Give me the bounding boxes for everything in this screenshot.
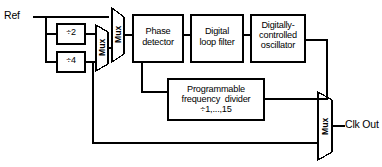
pll-block-diagram: Ref ÷2 ÷4 Mux Mux Phase detector Digital… <box>0 0 382 167</box>
frequency-divider-line-2: frequency divider <box>167 95 265 104</box>
loop-filter-line-1: Digital <box>191 27 243 36</box>
input-label-ref: Ref <box>4 10 32 21</box>
div2-label: ÷2 <box>57 28 85 37</box>
dco-line-3: oscillator <box>251 41 305 50</box>
frequency-divider-line-1: Programmable <box>168 85 264 94</box>
dco-line-1: Digitally- <box>251 21 305 30</box>
mux-reference-label: Mux <box>114 14 123 54</box>
mux-output-label: Mux <box>321 106 330 146</box>
frequency-divider-line-3: ÷1,...,15 <box>168 105 264 114</box>
mux-prescaler-label: Mux <box>98 27 107 67</box>
output-label-clk-out: Clk Out <box>345 119 382 130</box>
phase-detector-line-2: detector <box>133 38 183 47</box>
div4-label: ÷4 <box>57 56 85 65</box>
dco-line-2: controlled <box>251 31 305 40</box>
phase-detector-line-1: Phase <box>133 27 183 36</box>
loop-filter-line-2: loop filter <box>190 38 244 47</box>
